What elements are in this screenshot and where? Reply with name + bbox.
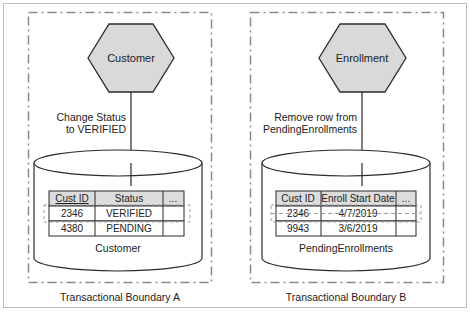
cylinder-top <box>34 150 202 176</box>
cell-cust-id: 4380 <box>61 223 84 234</box>
database-label: PendingEnrollments <box>299 242 393 254</box>
cell-cust-id: 2346 <box>287 208 310 219</box>
operation-label-line1: Remove row from <box>274 111 357 123</box>
enrollment-service-label: Enrollment <box>336 52 389 64</box>
database-label: Customer <box>95 242 141 254</box>
header-cust-id: Cust ID <box>55 193 88 204</box>
cylinder-top <box>262 150 430 176</box>
header-status: Status <box>115 193 143 204</box>
customer-service-label: Customer <box>107 52 155 64</box>
header-enroll-start-date: Enroll Start Date <box>321 193 395 204</box>
cell-cust-id: 9943 <box>287 223 310 234</box>
boundary-label-b: Transactional Boundary B <box>286 291 406 303</box>
cell-cust-id: 2346 <box>61 208 84 219</box>
cell-enroll-start-date: 3/6/2019 <box>339 223 378 234</box>
cell-status: PENDING <box>106 223 152 234</box>
operation-label-line2: to VERIFIED <box>66 123 127 135</box>
boundary-label-a: Transactional Boundary A <box>60 291 180 303</box>
diagram-canvas: Customer Change Status to VERIFIED Cust … <box>0 0 470 320</box>
header-more: ... <box>169 193 177 204</box>
customer-table: Cust ID Status ... 2346 VERIFIED 4380 PE… <box>44 191 190 236</box>
operation-label-line2: PendingEnrollments <box>263 123 357 135</box>
header-cust-id: Cust ID <box>281 193 314 204</box>
header-more: ... <box>402 193 410 204</box>
cell-status: VERIFIED <box>106 208 152 219</box>
pending-enrollments-table: Cust ID Enroll Start Date ... 2346 4/7/2… <box>271 191 421 236</box>
operation-label-line1: Change Status <box>57 111 126 123</box>
